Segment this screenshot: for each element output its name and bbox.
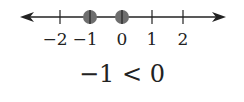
number-line: −2−1012: [0, 0, 244, 50]
inequality-caption: −1 < 0: [0, 60, 244, 88]
tick-label: 2: [178, 29, 189, 49]
tick-label: −2: [42, 29, 67, 49]
tick-label: 1: [147, 29, 158, 49]
tick-label: −1: [72, 29, 97, 49]
tick-label: 0: [117, 29, 128, 49]
